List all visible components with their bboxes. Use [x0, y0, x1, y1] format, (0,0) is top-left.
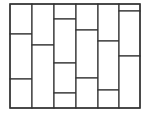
tile-rect	[54, 63, 76, 93]
tile-rect	[98, 90, 119, 108]
tile-rect	[119, 56, 140, 108]
tile-rect	[32, 4, 54, 45]
tile-rect	[98, 41, 119, 90]
tile-rect	[76, 4, 98, 30]
tile-rect	[10, 34, 32, 79]
tile-rect	[54, 19, 76, 63]
tile-rect	[54, 4, 76, 19]
tile-rect	[10, 79, 32, 108]
tile-rect	[119, 4, 140, 11]
tiling-diagram	[0, 0, 143, 116]
tile-rect	[76, 78, 98, 108]
tile-rect	[119, 11, 140, 56]
cell-group	[10, 4, 140, 108]
tile-rect	[98, 4, 119, 41]
tile-rect	[10, 4, 32, 34]
tile-rect	[76, 30, 98, 78]
tile-rect	[54, 93, 76, 108]
tile-rect	[32, 45, 54, 108]
